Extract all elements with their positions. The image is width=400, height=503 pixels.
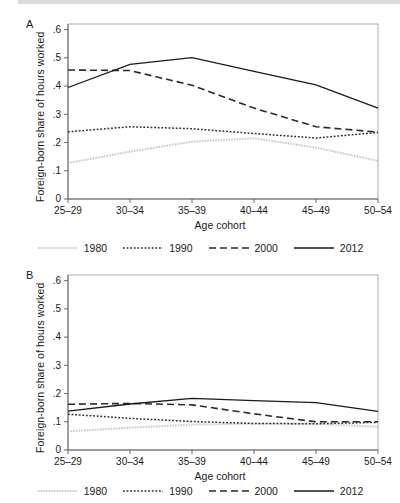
panel-a: A Foreign-born share of hours worked Age… — [0, 0, 400, 233]
legend-label-2000-b: 2000 — [255, 485, 278, 497]
panel-a-plot: 0.1.2.3.4.5.625–2930–3435–3940–4445–4950… — [0, 0, 400, 233]
figure-root: A Foreign-born share of hours worked Age… — [0, 0, 400, 503]
legend-label-1980: 1980 — [84, 242, 107, 254]
svg-text:.5: .5 — [53, 303, 62, 314]
legend-swatch-2000 — [208, 243, 250, 253]
legend-swatch-2012 — [293, 243, 335, 253]
svg-text:35–39: 35–39 — [178, 456, 206, 467]
legend-item-2000-b: 2000 — [208, 485, 278, 497]
series-line-1990 — [68, 127, 378, 138]
svg-text:.1: .1 — [53, 416, 62, 427]
legend-swatch-2012-b — [293, 486, 335, 496]
svg-text:30–34: 30–34 — [116, 456, 144, 467]
legend-label-1980-b: 1980 — [84, 485, 107, 497]
panel-b-plot: 0.1.2.3.4.5.625–2930–3435–3940–4445–4950… — [0, 255, 400, 485]
legend-swatch-1990 — [122, 243, 164, 253]
legend-swatch-1980-b — [37, 486, 79, 496]
svg-text:.5: .5 — [53, 52, 62, 63]
svg-text:40–44: 40–44 — [240, 456, 268, 467]
legend-item-1980: 1980 — [37, 242, 107, 254]
legend-item-1990: 1990 — [122, 242, 192, 254]
svg-text:0: 0 — [55, 444, 61, 455]
svg-text:40–44: 40–44 — [240, 205, 268, 216]
svg-text:0: 0 — [55, 193, 61, 204]
legend-swatch-2000-b — [208, 486, 250, 496]
svg-text:.3: .3 — [53, 360, 62, 371]
svg-text:25–29: 25–29 — [54, 456, 82, 467]
legend-label-1990: 1990 — [169, 242, 192, 254]
svg-text:45–49: 45–49 — [302, 205, 330, 216]
svg-text:.4: .4 — [53, 331, 62, 342]
svg-text:.2: .2 — [53, 388, 62, 399]
series-line-1980 — [68, 424, 378, 432]
legend-label-1990-b: 1990 — [169, 485, 192, 497]
svg-text:35–39: 35–39 — [178, 205, 206, 216]
series-line-2000 — [68, 70, 378, 132]
legend-item-1980-b: 1980 — [37, 485, 107, 497]
legend-item-2012: 2012 — [293, 242, 363, 254]
legend-label-2012-b: 2012 — [340, 485, 363, 497]
legend-item-1990-b: 1990 — [122, 485, 192, 497]
svg-text:45–49: 45–49 — [302, 456, 330, 467]
svg-text:.6: .6 — [53, 275, 62, 286]
svg-text:.3: .3 — [53, 109, 62, 120]
svg-text:50–54: 50–54 — [364, 205, 392, 216]
legend-item-2000: 2000 — [208, 242, 278, 254]
legend-item-2012-b: 2012 — [293, 485, 363, 497]
legend-label-2012: 2012 — [340, 242, 363, 254]
legend-swatch-1980 — [37, 243, 79, 253]
series-line-1980 — [68, 138, 378, 163]
panel-b: B Foreign-born share of hours worked Age… — [0, 255, 400, 485]
svg-text:.4: .4 — [53, 80, 62, 91]
series-line-2012 — [68, 58, 378, 109]
legend-panel-b: 1980 1990 2000 2012 — [0, 481, 400, 501]
legend-label-2000: 2000 — [255, 242, 278, 254]
legend-swatch-1990-b — [122, 486, 164, 496]
svg-text:.6: .6 — [53, 24, 62, 35]
svg-text:25–29: 25–29 — [54, 205, 82, 216]
svg-text:50–54: 50–54 — [364, 456, 392, 467]
svg-text:.2: .2 — [53, 137, 62, 148]
svg-text:.1: .1 — [53, 165, 62, 176]
svg-text:30–34: 30–34 — [116, 205, 144, 216]
